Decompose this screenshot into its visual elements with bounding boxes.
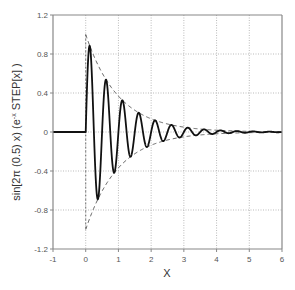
x-tick-label: -1	[49, 255, 57, 264]
y-tick-label: 1.2	[37, 11, 49, 20]
y-tick-label: 0.4	[37, 89, 49, 98]
y-tick-label: -0.4	[34, 167, 48, 176]
x-tick-label: 2	[149, 255, 154, 264]
y-tick-label: 0.8	[37, 50, 49, 59]
x-tick-label: 1	[116, 255, 121, 264]
x-axis-title: X	[163, 267, 171, 279]
y-tick-label: -0.8	[34, 206, 48, 215]
chart: -101234561.20.80.40-0.4-0.8-1.2 X sin[2π…	[0, 0, 295, 290]
y-axis-title-prefix: sin[2π (0.5) x) (e	[10, 119, 22, 201]
x-tick-label: 3	[182, 255, 187, 264]
x-tick-label: 5	[247, 255, 252, 264]
y-tick-label: 0	[44, 128, 49, 137]
x-tick-label: 6	[280, 255, 285, 264]
x-tick-label: 4	[214, 255, 219, 264]
tick-labels: -101234561.20.80.40-0.4-0.8-1.2	[34, 11, 285, 264]
x-tick-label: 0	[83, 255, 88, 264]
y-axis-title: sin[2π (0.5) x) (e-x STEP[x] )	[10, 63, 22, 201]
axes	[50, 15, 282, 252]
y-tick-label: -1.2	[34, 245, 48, 254]
curves	[53, 46, 282, 200]
y-axis-title-suffix: STEP[x] )	[10, 63, 22, 113]
series-damped-sine	[53, 46, 282, 200]
